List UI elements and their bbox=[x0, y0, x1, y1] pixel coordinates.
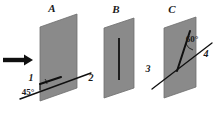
optics-diagram-svg: A 1 2 45° B 3 C 60° bbox=[0, 0, 216, 115]
panel-c-label-angle-60: 60° bbox=[186, 34, 199, 44]
arrow-head bbox=[24, 55, 33, 66]
panel-a-label-ray-2: 2 bbox=[88, 72, 94, 83]
panel-c-letter: C bbox=[168, 3, 176, 15]
panel-a-letter: A bbox=[47, 2, 55, 14]
panel-c-label-ray-4: 4 bbox=[203, 48, 209, 59]
panel-c-plate bbox=[164, 17, 196, 98]
panel-a-plate bbox=[40, 14, 77, 101]
panel-b-label-ray-3: 3 bbox=[145, 63, 151, 74]
panel-a-label-angle-45: 45° bbox=[22, 87, 35, 97]
panel-c-group: C 60° 4 bbox=[152, 3, 212, 98]
panel-a-label-ray-1: 1 bbox=[29, 72, 34, 83]
panel-b-group: B 3 bbox=[104, 3, 151, 98]
panel-b-letter: B bbox=[111, 3, 119, 15]
diagram-canvas: A 1 2 45° B 3 C 60° bbox=[0, 0, 216, 115]
panel-a-group: A 1 2 45° bbox=[20, 2, 94, 101]
incoming-ray-arrow bbox=[3, 55, 33, 66]
